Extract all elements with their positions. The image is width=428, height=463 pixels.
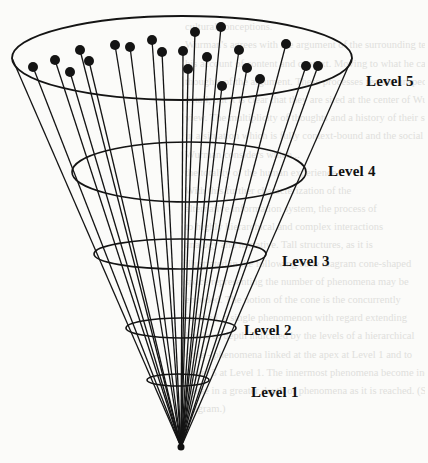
phenomenon-dot	[50, 55, 60, 65]
phenomenon-dot	[313, 61, 323, 71]
phenomenon-dot	[281, 39, 291, 49]
phenomenon-dot	[125, 42, 135, 52]
phenomenon-dot	[301, 61, 311, 71]
ray-line	[181, 68, 247, 447]
cone-diagram	[0, 0, 428, 463]
phenomenon-dot	[157, 47, 167, 57]
phenomenon-dot	[147, 35, 157, 45]
phenomenon-dot	[217, 81, 227, 91]
label-level-5: Level 5	[366, 73, 414, 90]
phenomenon-dot	[28, 62, 38, 72]
label-level-3: Level 3	[282, 253, 330, 270]
phenomenon-dot	[178, 46, 188, 56]
label-level-1: Level 1	[251, 384, 299, 401]
phenomenon-dot	[216, 22, 226, 32]
phenomenon-dot	[234, 45, 244, 55]
phenomenon-dot	[202, 52, 212, 62]
phenomenon-dot	[190, 27, 200, 37]
phenomenon-dot	[110, 40, 120, 50]
phenomenon-dot	[183, 64, 193, 74]
ellipse-level-5	[12, 16, 352, 100]
cone-apex	[178, 444, 185, 451]
label-level-2: Level 2	[244, 322, 292, 339]
phenomenon-dot	[242, 63, 252, 73]
scanned-page: cultural conceptions. Wurman's agrees wi…	[0, 0, 428, 463]
ray-line	[70, 72, 181, 447]
phenomenon-dot	[255, 74, 265, 84]
phenomenon-dot	[75, 45, 85, 55]
cone-rays	[12, 27, 352, 447]
label-level-4: Level 4	[328, 163, 376, 180]
phenomenon-dot	[65, 67, 75, 77]
ray-line	[181, 50, 239, 447]
ray-line	[33, 67, 181, 447]
ray-line	[55, 60, 181, 447]
phenomenon-dot	[84, 56, 94, 66]
